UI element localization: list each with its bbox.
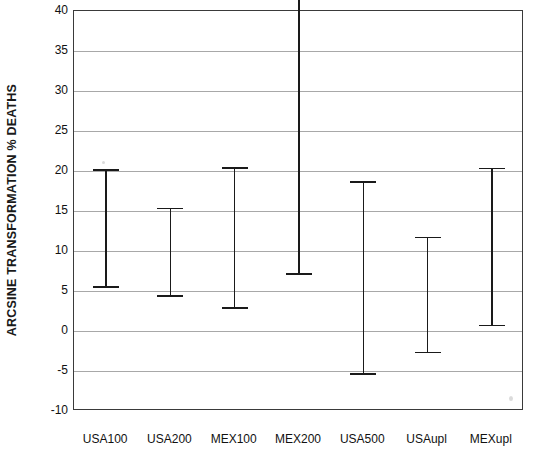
error-bar-cap-lower — [222, 307, 248, 309]
y-tick-label: -5 — [32, 363, 68, 377]
error-bar-line — [105, 170, 107, 287]
error-bar-line — [170, 209, 172, 296]
error-bar-line — [298, 0, 300, 274]
error-bar-cap-lower — [350, 373, 376, 375]
error-bar — [333, 11, 393, 409]
error-bar-cap-lower — [479, 325, 505, 327]
error-bar-line — [234, 168, 236, 308]
error-bar-line — [427, 237, 429, 352]
y-axis-title: ARCSINE TRANSFORMATION % DEATHS — [0, 0, 24, 420]
y-tick-label: -10 — [32, 403, 68, 417]
x-tick-label: MEXupl — [451, 432, 531, 446]
error-bar — [398, 11, 458, 409]
y-tick-label: 35 — [32, 43, 68, 57]
y-tick-label: 10 — [32, 243, 68, 257]
error-bar-cap-upper — [93, 169, 119, 171]
error-bar — [205, 11, 265, 409]
error-bar — [140, 11, 200, 409]
error-bar — [462, 11, 522, 409]
error-bar-cap-lower — [415, 352, 441, 354]
error-bar-cap-upper — [222, 167, 248, 169]
error-bar — [269, 11, 329, 409]
y-tick-label: 15 — [32, 203, 68, 217]
error-bar-cap-lower — [93, 286, 119, 288]
error-bar-cap-lower — [157, 295, 183, 297]
y-axis-title-text: ARCSINE TRANSFORMATION % DEATHS — [5, 84, 19, 336]
plot-area — [73, 10, 523, 410]
y-tick-label: 25 — [32, 123, 68, 137]
y-tick-label: 0 — [32, 323, 68, 337]
y-axis-tick-labels: -10-50510152025303540 — [26, 10, 68, 410]
error-bar-cap-lower — [286, 273, 312, 275]
error-bar-cap-upper — [157, 208, 183, 210]
error-bar-line — [363, 182, 365, 374]
y-tick-label: 40 — [32, 3, 68, 17]
scan-artifact-speck — [102, 161, 105, 164]
x-axis-tick-labels: USA100USA200MEX100MEX200USA500USAuplMEXu… — [73, 432, 523, 454]
y-tick-label: 20 — [32, 163, 68, 177]
error-bar — [76, 11, 136, 409]
y-tick-label: 30 — [32, 83, 68, 97]
y-tick-label: 5 — [32, 283, 68, 297]
scan-artifact-speck — [509, 396, 513, 401]
error-bar-line — [491, 169, 493, 326]
error-bar-cap-upper — [415, 237, 441, 239]
error-bar-cap-upper — [479, 168, 505, 170]
chart-container: ARCSINE TRANSFORMATION % DEATHS -10-5051… — [0, 0, 535, 468]
error-bar-cap-upper — [350, 181, 376, 183]
